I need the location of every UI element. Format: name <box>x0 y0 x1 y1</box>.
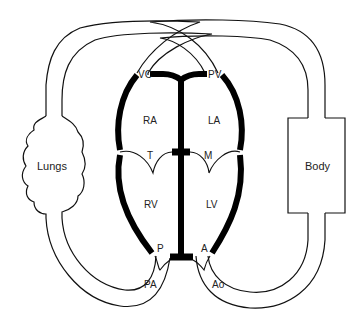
pulmonary-artery-loop <box>46 218 170 307</box>
label-pv: PV <box>208 70 221 80</box>
label-m: M <box>204 151 212 161</box>
label-lv: LV <box>206 200 218 210</box>
label-vc: VC <box>138 70 152 80</box>
label-body: Body <box>305 161 330 172</box>
label-a: A <box>201 244 208 254</box>
label-la: LA <box>208 116 220 126</box>
label-t: T <box>147 151 153 161</box>
label-ao: Ao <box>212 280 224 290</box>
label-lungs: Lungs <box>37 161 67 172</box>
label-pa: PA <box>144 280 157 290</box>
label-rv: RV <box>144 200 158 210</box>
heart <box>118 73 242 270</box>
aorta-loop <box>196 213 325 308</box>
pulmonary-loop-top <box>46 21 212 116</box>
label-ra: RA <box>143 116 157 126</box>
label-p: P <box>157 244 164 254</box>
circulation-diagram: VC PV RA LA T M RV LV P A PA Ao Lungs Bo… <box>0 0 363 323</box>
